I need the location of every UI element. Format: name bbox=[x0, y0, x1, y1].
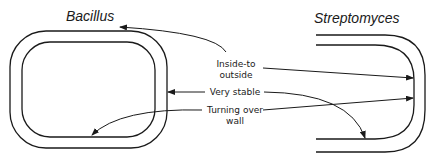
label-inside-to-outside-line2: outside bbox=[206, 70, 266, 81]
diagram-canvas: Bacillus Streptomyces Inside-to outside … bbox=[0, 0, 438, 159]
bacillus-title: Bacillus bbox=[66, 8, 114, 24]
label-turning-over-wall: Turning over wall bbox=[202, 105, 268, 127]
arrow-very-stable-streptomyces bbox=[264, 92, 365, 138]
label-turning-over-line2: wall bbox=[202, 116, 268, 127]
label-turning-over-line1: Turning over bbox=[202, 105, 268, 116]
label-inside-to-outside-line1: Inside-to bbox=[206, 59, 266, 70]
label-inside-to-outside: Inside-to outside bbox=[206, 59, 266, 81]
arrow-turning-over-streptomyces bbox=[263, 98, 413, 110]
streptomyces-outer-wall bbox=[316, 35, 425, 152]
bacillus-outer-wall bbox=[10, 31, 167, 148]
arrow-turning-over-bacillus bbox=[92, 110, 202, 135]
streptomyces-inner-membrane bbox=[316, 45, 414, 139]
arrow-inside-to-outside-streptomyces bbox=[263, 68, 413, 78]
bacillus-inner-membrane bbox=[22, 42, 155, 137]
streptomyces-title: Streptomyces bbox=[314, 10, 400, 26]
label-very-stable: Very stable bbox=[204, 87, 266, 98]
